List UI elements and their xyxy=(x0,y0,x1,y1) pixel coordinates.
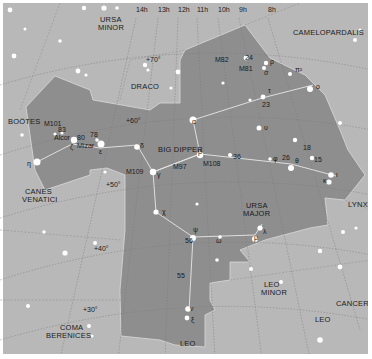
star xyxy=(101,5,106,10)
star-chi xyxy=(153,209,158,214)
star-23 xyxy=(261,95,266,100)
star xyxy=(293,138,297,142)
constellation-label: VENATICI xyxy=(22,195,58,204)
star-label: π² xyxy=(295,66,303,73)
star xyxy=(228,153,232,157)
star xyxy=(249,267,253,271)
star-label: M81 xyxy=(239,65,253,72)
star-theta xyxy=(288,165,294,171)
ra-tick-label: 9h xyxy=(239,6,247,13)
star-label: 80 xyxy=(77,134,85,141)
star-label: 78 xyxy=(90,131,98,138)
constellation-label: MAJOR xyxy=(243,209,271,218)
star xyxy=(338,121,342,125)
star-chart: 14h13h12h11h10h9h8h +70°+60°+50°+40°+30°… xyxy=(0,0,372,359)
star xyxy=(169,86,172,89)
star-label: υ xyxy=(264,124,268,131)
dec-tick-label: +70° xyxy=(146,56,161,63)
star-gamma xyxy=(150,169,156,175)
star-label: M109 xyxy=(126,168,144,175)
ra-tick-label: 8h xyxy=(268,6,276,13)
star xyxy=(42,230,46,234)
star xyxy=(62,250,67,255)
star xyxy=(87,324,91,328)
star-label: 24 xyxy=(245,54,253,61)
constellation-label: DRACO xyxy=(131,82,159,91)
star xyxy=(176,70,181,75)
star xyxy=(354,226,357,229)
star-label: φ xyxy=(273,155,278,163)
margin-right xyxy=(368,0,372,359)
star-label: ξ xyxy=(191,316,194,324)
star xyxy=(268,157,272,161)
star-label: Mizar xyxy=(77,142,95,149)
dec-tick-label: +30° xyxy=(83,306,98,313)
star-label: 26 xyxy=(282,154,290,161)
ra-tick-label: 11h xyxy=(197,6,208,13)
constellation-label: BIG DIPPER xyxy=(158,145,203,154)
constellation-label: LYNX xyxy=(348,200,368,209)
star-label: ψ xyxy=(193,226,198,234)
dec-tick-label: +40° xyxy=(94,245,109,252)
dec-tick-label: +50° xyxy=(106,181,121,188)
star-label: Alcor xyxy=(54,134,71,141)
star-label: M97 xyxy=(173,163,187,170)
star-eta xyxy=(34,159,41,166)
star-omicron xyxy=(307,86,313,92)
star-label: 56 xyxy=(185,237,193,244)
star xyxy=(103,170,106,173)
star xyxy=(317,337,323,343)
constellation-label: MINOR xyxy=(98,23,124,32)
star-label: μ xyxy=(254,234,258,242)
star xyxy=(221,81,224,84)
ra-tick-label: 12h xyxy=(178,6,190,13)
star-label: λ xyxy=(263,228,267,235)
star-label: 15 xyxy=(314,156,322,163)
constellation-label: MINOR xyxy=(261,288,287,297)
star-epsilon xyxy=(98,141,105,148)
star-label: σ xyxy=(264,69,269,76)
margin-bottom xyxy=(0,354,372,359)
star xyxy=(95,138,99,142)
star-label: η xyxy=(27,160,31,168)
star-delta xyxy=(134,144,140,150)
star-label: χ xyxy=(162,208,166,216)
star-label: κ xyxy=(323,177,327,184)
star xyxy=(215,258,219,262)
star xyxy=(338,265,343,270)
star xyxy=(82,6,86,10)
constellation-label: BERENICES xyxy=(46,331,91,340)
ra-tick-label: 13h xyxy=(158,6,170,13)
star xyxy=(143,63,147,67)
star-label: 36 xyxy=(233,153,241,160)
constellation-label: LEO xyxy=(315,315,331,324)
ra-tick-label: 14h xyxy=(136,6,148,13)
ra-tick-label: 10h xyxy=(218,6,230,13)
star xyxy=(341,230,345,234)
star-upsilon xyxy=(257,126,262,131)
star-label: α xyxy=(192,118,196,125)
star xyxy=(12,54,17,59)
constellation-label: CANCER xyxy=(336,299,369,308)
star-label: ζ xyxy=(70,143,73,151)
star xyxy=(24,28,27,31)
star xyxy=(353,38,357,42)
star xyxy=(115,6,119,10)
star-label: 18 xyxy=(303,144,311,151)
star-label: γ xyxy=(157,171,161,179)
star-label: M108 xyxy=(203,160,221,167)
star-label: θ xyxy=(295,157,299,164)
star xyxy=(8,8,13,13)
star-label: 55 xyxy=(177,272,185,279)
star xyxy=(264,61,268,65)
star xyxy=(84,73,87,76)
star-iota xyxy=(328,172,334,178)
star xyxy=(318,249,322,253)
constellation-label: BOÖTES xyxy=(8,117,40,126)
star-label: 83 xyxy=(58,126,66,133)
star-label: ο xyxy=(316,83,320,90)
star-label: β xyxy=(198,148,202,156)
star-label: 23 xyxy=(262,101,270,108)
star-lambda xyxy=(257,225,262,230)
star-label: ρ xyxy=(270,58,274,66)
